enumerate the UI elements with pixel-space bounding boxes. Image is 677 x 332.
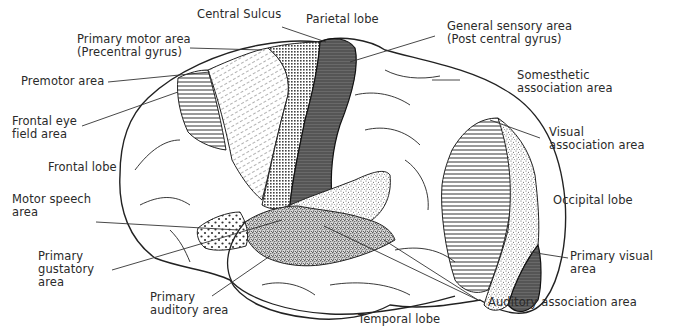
label-primary-visual-area: Primary visual area: [570, 250, 653, 276]
label-primary-auditory-area: Primary auditory area: [150, 291, 229, 317]
label-visual-association-area: Visual association area: [549, 126, 645, 152]
label-premotor-area: Premotor area: [21, 75, 104, 88]
label-frontal-eye-field-area: Frontal eye field area: [12, 115, 77, 141]
label-temporal-lobe: Temporal lobe: [358, 313, 440, 326]
label-general-sensory-area: General sensory area (Post central gyrus…: [447, 20, 572, 46]
label-parietal-lobe: Parietal lobe: [306, 13, 379, 26]
label-auditory-association-area: Auditory association area: [488, 296, 637, 309]
label-motor-speech-area: Motor speech area: [12, 193, 91, 219]
label-somesthetic-association-area: Somesthetic association area: [517, 69, 613, 95]
label-primary-motor-area: Primary motor area (Precentral gyrus): [77, 33, 191, 59]
brain-diagram: Central Sulcus Parietal lobe Primary mot…: [0, 0, 677, 332]
label-primary-gustatory-area: Primary gustatory area: [38, 250, 94, 289]
label-frontal-lobe: Frontal lobe: [48, 161, 117, 174]
label-occipital-lobe: Occipital lobe: [553, 194, 633, 207]
label-central-sulcus: Central Sulcus: [197, 8, 281, 21]
